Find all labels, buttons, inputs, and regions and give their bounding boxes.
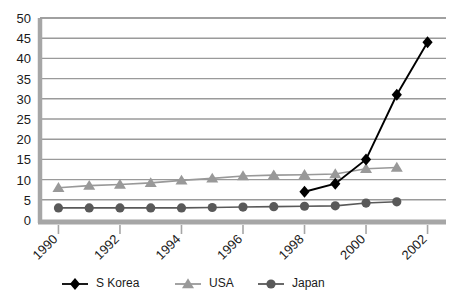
y-tick-label-10: 10 bbox=[17, 173, 31, 188]
marker-circle bbox=[300, 202, 309, 211]
marker-circle bbox=[266, 279, 275, 288]
y-tick-label-15: 15 bbox=[17, 152, 31, 167]
y-tick-label-0: 0 bbox=[24, 213, 31, 228]
marker-circle bbox=[85, 203, 94, 212]
y-tick-label-30: 30 bbox=[17, 92, 31, 107]
y-tick-label-35: 35 bbox=[17, 72, 31, 87]
marker-circle bbox=[146, 203, 155, 212]
marker-circle bbox=[361, 198, 370, 207]
legend-label-japan: Japan bbox=[292, 276, 325, 290]
y-tick-label-50: 50 bbox=[17, 11, 31, 26]
marker-circle bbox=[392, 197, 401, 206]
y-tick-label-20: 20 bbox=[17, 132, 31, 147]
y-tick-label-25: 25 bbox=[17, 112, 31, 127]
marker-circle bbox=[177, 203, 186, 212]
y-tick-label-40: 40 bbox=[17, 51, 31, 66]
legend-label-usa: USA bbox=[209, 276, 234, 290]
chart-canvas: 05101520253035404550 1990199219941996199… bbox=[0, 0, 456, 303]
y-tick-label-5: 5 bbox=[24, 193, 31, 208]
marker-circle bbox=[54, 203, 63, 212]
line-chart: 05101520253035404550 1990199219941996199… bbox=[0, 0, 456, 303]
legend-label-s-korea: S Korea bbox=[96, 276, 140, 290]
marker-circle bbox=[208, 203, 217, 212]
marker-circle bbox=[115, 203, 124, 212]
marker-circle bbox=[238, 202, 247, 211]
marker-circle bbox=[269, 202, 278, 211]
marker-circle bbox=[331, 201, 340, 210]
y-tick-label-45: 45 bbox=[17, 31, 31, 46]
